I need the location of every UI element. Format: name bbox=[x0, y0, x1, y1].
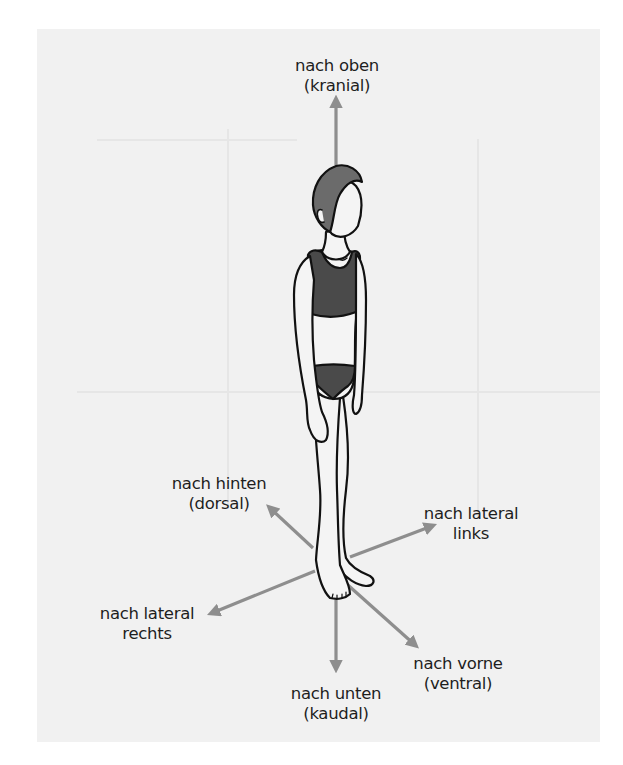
label-down-line2: (kaudal) bbox=[284, 704, 388, 724]
label-right-line1: nach lateral bbox=[92, 604, 202, 624]
label-down-line1: nach unten bbox=[284, 684, 388, 704]
label-up-cranial: nach oben (kranial) bbox=[290, 56, 384, 96]
child-figure bbox=[294, 165, 373, 599]
label-left-line1: nach lateral bbox=[416, 504, 526, 524]
label-down-caudal: nach unten (kaudal) bbox=[284, 684, 388, 724]
label-right-line2: rechts bbox=[92, 624, 202, 644]
arrow-down-right-icon bbox=[340, 578, 415, 645]
arrow-down-left-icon bbox=[212, 571, 315, 613]
label-left-line2: links bbox=[416, 524, 526, 544]
label-back-dorsal: nach hinten (dorsal) bbox=[163, 474, 275, 514]
label-up-line2: (kranial) bbox=[290, 76, 384, 96]
label-up-line1: nach oben bbox=[290, 56, 384, 76]
label-lateral-left: nach lateral links bbox=[416, 504, 526, 544]
label-front-line1: nach vorne bbox=[402, 654, 514, 674]
label-lateral-right: nach lateral rechts bbox=[92, 604, 202, 644]
arrow-up-left-icon bbox=[270, 508, 313, 548]
anatomy-figure-scene bbox=[0, 0, 623, 765]
label-back-line1: nach hinten bbox=[163, 474, 275, 494]
label-back-line2: (dorsal) bbox=[163, 494, 275, 514]
label-front-ventral: nach vorne (ventral) bbox=[402, 654, 514, 694]
label-front-line2: (ventral) bbox=[402, 674, 514, 694]
